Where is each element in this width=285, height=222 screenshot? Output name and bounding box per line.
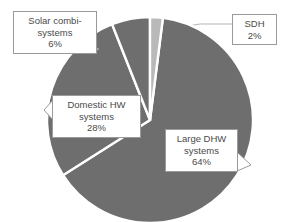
callout-domestic-label-line1: Domestic HW [57,99,136,111]
pie-chart: Solar combi- systems 6% SDH 2% Domestic … [0,0,285,222]
callout-sdh-percent: 2% [237,30,272,42]
callout-sdh[interactable]: SDH 2% [232,14,277,45]
callout-large-percent: 64% [170,156,233,168]
callout-solar-combi-systems[interactable]: Solar combi- systems 6% [13,11,97,54]
callout-domestic-label-line2: systems [57,111,136,123]
callout-solar-label-line1: Solar combi- [18,15,92,27]
callout-large-label-line1: Large DHW [170,133,233,145]
callout-domestic-percent: 28% [57,122,136,134]
callout-solar-label-line2: systems [18,27,92,39]
callout-domestic-hw-systems[interactable]: Domestic HW systems 28% [52,95,141,138]
callout-solar-percent: 6% [18,38,92,50]
callout-large-dhw-systems[interactable]: Large DHW systems 64% [165,129,238,172]
callout-sdh-label-line1: SDH [237,18,272,30]
callout-large-label-line2: systems [170,145,233,157]
